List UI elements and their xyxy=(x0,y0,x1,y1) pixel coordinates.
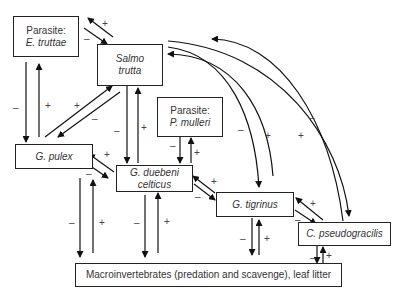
node-label-species: P. mulleri xyxy=(170,117,210,129)
node-label: G. pulex xyxy=(35,151,72,163)
sign-cpseudo-salmo: + xyxy=(298,131,304,141)
edge-salmo-to-etruttae xyxy=(88,18,113,37)
node-c-pseudogracilis: C. pseudogracilis xyxy=(298,222,391,246)
sign-gtigrinus-gduebeni: + xyxy=(211,177,217,187)
node-salmo-trutta: Salmo trutta xyxy=(97,44,163,86)
node-label-species: trutta xyxy=(119,65,142,77)
sign-salmo-etruttae: + xyxy=(102,19,108,29)
sign-gduebeni-gtigrinus: – xyxy=(195,192,201,202)
sign-pmulleri-gduebeni: – xyxy=(170,141,176,151)
sign-salmo-cpseudo: – xyxy=(309,113,315,123)
food-web-diagram: Parasite: E. truttae Salmo trutta Parasi… xyxy=(0,0,401,299)
sign-macro-gduebeni: + xyxy=(164,217,170,227)
sign-gpulex-etruttae: + xyxy=(45,101,51,111)
sign-cpseudo-gtigrinus: + xyxy=(310,199,316,209)
node-label-genus: Salmo xyxy=(116,53,144,65)
node-label-prefix: Parasite: xyxy=(170,105,209,117)
sign-gduebeni-pmulleri: + xyxy=(194,148,200,158)
sign-macro-cpseudo: + xyxy=(326,251,332,261)
sign-gpulex-gduebeni: – xyxy=(86,169,92,179)
sign-gpulex-macro: – xyxy=(69,218,75,228)
sign-macro-gpulex: + xyxy=(99,218,105,228)
node-label-species: E. truttae xyxy=(26,37,67,49)
node-g-pulex: G. pulex xyxy=(15,144,93,169)
sign-cpseudo-macro: – xyxy=(310,253,316,263)
node-g-tigrinus: G. tigrinus xyxy=(216,192,294,217)
sign-etruttae-salmo: – xyxy=(84,34,90,44)
sign-gpulex-salmo: + xyxy=(74,101,80,111)
sign-salmo-gpulex: – xyxy=(92,114,98,124)
edge-gpulex-to-salmo xyxy=(45,86,112,137)
node-e-truttae: Parasite: E. truttae xyxy=(13,16,79,57)
sign-gduebeni-gpulex: + xyxy=(104,150,110,160)
sign-gtigrinus-cpseudo: – xyxy=(295,215,301,225)
sign-gduebeni-macro: – xyxy=(134,218,140,228)
node-label-line2: celticus xyxy=(138,179,171,191)
node-label-line1: G. duebeni xyxy=(130,167,179,179)
node-label: G. tigrinus xyxy=(232,199,278,211)
sign-gtigrinus-macro: – xyxy=(240,234,246,244)
edge-salmo-to-gpulex xyxy=(58,92,120,137)
node-g-duebeni-celticus: G. duebeni celticus xyxy=(116,165,193,192)
node-macroinvertebrates: Macroinvertebrates (predation and scaven… xyxy=(75,263,342,287)
node-label-prefix: Parasite: xyxy=(26,25,65,37)
sign-salmo-gduebeni: – xyxy=(114,126,120,136)
node-label: C. pseudogracilis xyxy=(306,228,383,240)
sign-gtigrinus-salmo: + xyxy=(265,131,271,141)
node-label: Macroinvertebrates (predation and scaven… xyxy=(86,269,331,281)
sign-gduebeni-salmo: + xyxy=(141,123,147,133)
sign-etruttae-gpulex: – xyxy=(13,103,19,113)
sign-macro-gtigrinus: + xyxy=(264,234,270,244)
node-p-mulleri: Parasite: P. mulleri xyxy=(157,97,223,137)
sign-salmo-gtigrinus: – xyxy=(238,125,244,135)
